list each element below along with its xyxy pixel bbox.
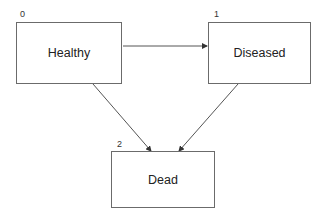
state-index-dead: 2	[117, 139, 122, 149]
state-index-diseased: 1	[214, 9, 219, 19]
state-box-healthy: Healthy	[16, 22, 122, 84]
state-box-dead: Dead	[111, 151, 215, 208]
arrow-diseased-to-dead	[179, 84, 238, 151]
state-label-dead: Dead	[148, 173, 178, 187]
state-label-diseased: Diseased	[233, 46, 285, 60]
state-label-healthy: Healthy	[48, 46, 90, 60]
state-box-diseased: Diseased	[208, 22, 311, 84]
state-index-healthy: 0	[20, 9, 25, 19]
